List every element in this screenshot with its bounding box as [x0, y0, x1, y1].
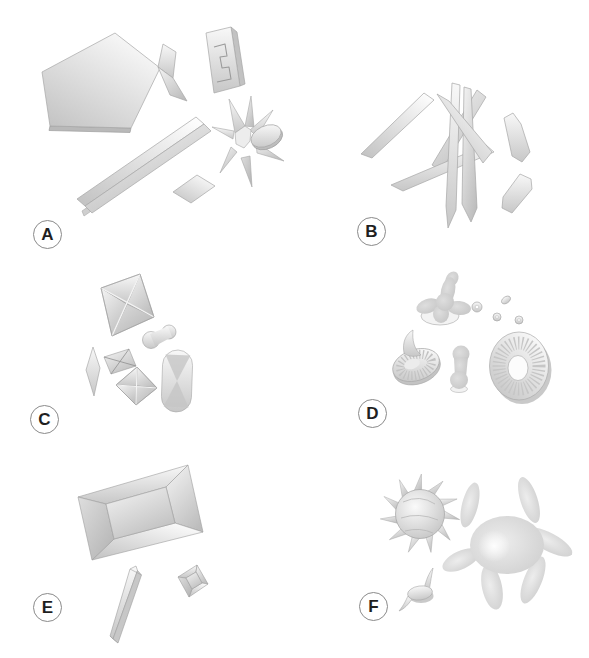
medium-envelope [116, 367, 157, 405]
bent-plate [158, 44, 187, 101]
lens-crystal [86, 347, 100, 396]
lath-diagonal-upper-left [361, 93, 434, 158]
panel-label-c-text: C [38, 410, 50, 430]
panel-label-b: B [357, 217, 386, 246]
dumbbell [143, 325, 177, 349]
panel-label-f-text: F [368, 597, 378, 617]
narrow-prism [110, 566, 142, 643]
notched-plate [206, 27, 245, 93]
striated-disc-with-spicule [388, 330, 444, 391]
panel-label-a: A [33, 220, 62, 249]
dumbbell [450, 346, 470, 393]
lobed-cross-mass [414, 269, 471, 325]
panel-b-shapes [361, 83, 532, 228]
panel-label-d-text: D [366, 404, 378, 424]
thorn-apple-sphere [380, 474, 459, 552]
large-envelope-octahedron [101, 274, 154, 336]
striated-torus-disc [490, 332, 552, 404]
figure-canvas: A B C D E F [0, 0, 589, 658]
hourglass-capsule [161, 349, 193, 412]
panel-label-a-text: A [41, 225, 53, 245]
rhombic-plate [173, 175, 215, 203]
panel-label-b-text: B [365, 222, 377, 242]
pentagonal-plate [42, 33, 160, 133]
panel-d-shapes [388, 269, 551, 404]
panel-label-c: C [30, 405, 59, 434]
granule-rings [472, 295, 523, 324]
panel-c-shapes [86, 274, 193, 413]
panel-a-shapes [42, 27, 286, 216]
panel-label-e: E [33, 593, 62, 622]
panel-label-d: D [358, 399, 387, 428]
small-envelope [104, 349, 136, 374]
large-coffin-lid-prism [78, 465, 203, 560]
lobed-amoeboid-mass [439, 475, 576, 612]
small-coffin-lid-prism [178, 565, 208, 597]
small-pointed-lath [502, 174, 532, 213]
hexagonal-lath [504, 113, 530, 162]
small-spiked-disc [399, 568, 434, 611]
panel-e-shapes [78, 465, 208, 643]
panel-label-e-text: E [42, 598, 53, 618]
panel-label-f: F [359, 592, 388, 621]
panel-f-shapes [380, 474, 576, 612]
crystal-illustration [0, 0, 589, 658]
